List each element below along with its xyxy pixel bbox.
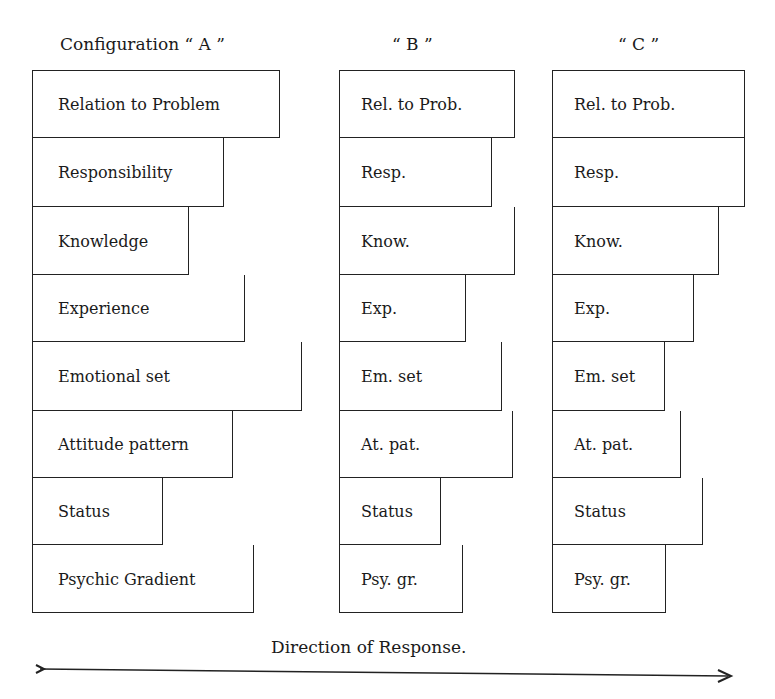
factor-bar: Status xyxy=(32,478,163,545)
factor-bar: At. pat. xyxy=(339,411,513,478)
factor-label: Status xyxy=(58,502,110,521)
factor-bar: Psy. gr. xyxy=(339,545,463,613)
factor-label: Status xyxy=(574,502,626,521)
factor-label: Psychic Gradient xyxy=(58,569,196,588)
factor-label: Emotional set xyxy=(58,367,170,386)
factor-bar: Attitude pattern xyxy=(32,411,233,478)
factor-label: At. pat. xyxy=(361,435,420,454)
factor-label: Em. set xyxy=(361,367,422,386)
factor-bar: Know. xyxy=(552,207,719,275)
factor-bar: Resp. xyxy=(339,138,492,207)
factor-bar: Psychic Gradient xyxy=(32,545,254,613)
factor-label: Know. xyxy=(361,231,410,250)
direction-of-response-label: Direction of Response. xyxy=(271,637,466,657)
factor-label: Attitude pattern xyxy=(58,435,189,454)
factor-bar: Resp. xyxy=(552,138,745,207)
factor-label: Em. set xyxy=(574,367,635,386)
factor-bar: Status xyxy=(339,478,441,545)
factor-label: Resp. xyxy=(574,163,619,182)
factor-label: Knowledge xyxy=(58,231,148,250)
factor-label: Rel. to Prob. xyxy=(361,95,462,114)
factor-label: Rel. to Prob. xyxy=(574,95,675,114)
factor-bar: Relation to Problem xyxy=(32,70,280,138)
factor-bar: Experience xyxy=(32,275,245,342)
factor-bar: Exp. xyxy=(552,275,694,342)
factor-bar: Rel. to Prob. xyxy=(339,70,515,138)
configuration-title: “ B ” xyxy=(392,34,433,54)
factor-bar: Em. set xyxy=(552,342,665,411)
factor-label: Know. xyxy=(574,231,623,250)
factor-label: Exp. xyxy=(361,299,397,318)
factor-label: Relation to Problem xyxy=(58,95,220,114)
configuration-title: Configuration “ A ” xyxy=(60,34,225,54)
factor-bar: Know. xyxy=(339,207,515,275)
factor-bar: Knowledge xyxy=(32,207,189,275)
factor-label: Experience xyxy=(58,299,149,318)
factor-label: Psy. gr. xyxy=(574,569,631,588)
factor-bar: At. pat. xyxy=(552,411,681,478)
factor-bar: Status xyxy=(552,478,703,545)
factor-bar: Emotional set xyxy=(32,342,302,411)
direction-arrow-icon xyxy=(0,660,775,699)
factor-bar: Rel. to Prob. xyxy=(552,70,745,138)
factor-label: At. pat. xyxy=(574,435,633,454)
configuration-title: “ C ” xyxy=(618,34,659,54)
factor-bar: Exp. xyxy=(339,275,466,342)
factor-bar: Em. set xyxy=(339,342,502,411)
factor-bar: Psy. gr. xyxy=(552,545,666,613)
factor-label: Psy. gr. xyxy=(361,569,418,588)
factor-label: Resp. xyxy=(361,163,406,182)
factor-bar: Responsibility xyxy=(32,138,224,207)
factor-label: Status xyxy=(361,502,413,521)
factor-label: Responsibility xyxy=(58,163,172,182)
factor-label: Exp. xyxy=(574,299,610,318)
